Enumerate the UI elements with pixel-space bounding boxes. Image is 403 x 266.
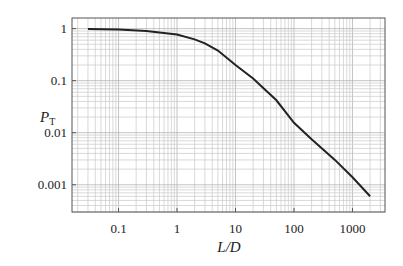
y-tick-label: 0.1 (51, 73, 67, 88)
y-tick-label: 1 (61, 21, 68, 36)
chart: 0.1110100100010.10.010.001 PT L/D (0, 0, 403, 266)
y-tick-label: 0.01 (44, 125, 67, 140)
x-tick-label: 10 (229, 221, 242, 236)
y-axis-label: PT (39, 109, 55, 127)
x-tick-label: 0.1 (110, 221, 126, 236)
plot-frame (72, 18, 385, 212)
x-axis-label: L/D (216, 239, 241, 255)
axis-ticks: 0.1110100100010.10.010.001 (38, 21, 366, 236)
x-tick-label: 1 (174, 221, 181, 236)
data-line (88, 29, 370, 196)
x-tick-label: 100 (284, 221, 304, 236)
x-tick-label: 1000 (339, 221, 365, 236)
y-tick-label: 0.001 (38, 177, 67, 192)
grid-lines (72, 18, 385, 212)
